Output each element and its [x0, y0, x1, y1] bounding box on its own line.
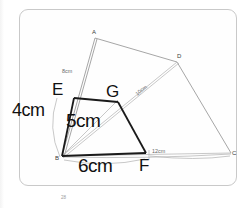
vertex-label-A: A — [92, 29, 96, 35]
measure-label-12cm: 12cm — [152, 148, 165, 154]
page-canvas: A D C B E G F 8cm 10cm 12cm 4cm 5cm 6cm … — [0, 0, 249, 208]
arc-4cm — [53, 98, 60, 157]
page-number: 28 — [61, 195, 66, 200]
vertex-label-G: G — [106, 82, 119, 102]
measure-label-8cm: 8cm — [62, 68, 72, 74]
vertex-label-E: E — [52, 80, 63, 100]
segment-DC — [177, 62, 231, 153]
measure-label-6cm: 6cm — [78, 155, 112, 177]
measure-label-4cm: 4cm — [12, 100, 45, 121]
vertex-label-F: F — [139, 156, 149, 176]
segment-BD — [62, 62, 177, 156]
vertex-label-B: B — [55, 155, 59, 161]
vertex-label-D: D — [177, 53, 181, 59]
outer-figure-lines — [62, 38, 231, 158]
segment-GF — [118, 102, 146, 153]
measure-label-5cm: 5cm — [66, 110, 100, 132]
vertex-label-C: C — [232, 150, 236, 156]
segment-AD — [95, 38, 177, 62]
segment-BA — [62, 38, 95, 156]
